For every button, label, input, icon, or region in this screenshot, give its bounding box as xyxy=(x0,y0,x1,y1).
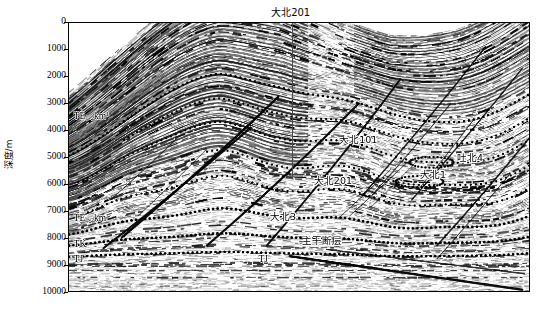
annotation-2-大北3: 大北3 xyxy=(270,212,296,222)
y-axis-title: 深度/m xyxy=(2,125,15,185)
wellhead-label-dabei201: 大北201 xyxy=(271,4,310,19)
annotation-1-大北201: 大北201 xyxy=(314,176,352,186)
y-tick-4000: 4000 xyxy=(30,125,66,135)
y-tick-5000: 5000 xyxy=(30,152,66,162)
annotation-4-大北1: 大北1 xyxy=(420,170,446,180)
y-axis-tick-labels: 0100020003000400050006000700080009000100… xyxy=(24,0,66,309)
y-tick-6000: 6000 xyxy=(30,179,66,189)
horizon-label-te12km-lower: TE1-2km xyxy=(74,213,106,225)
y-tick-3000: 3000 xyxy=(30,98,66,108)
y-tick-2000: 2000 xyxy=(30,71,66,81)
horizon-label-tk: TK xyxy=(74,239,87,249)
horizon-label-tj-left: TJ xyxy=(74,254,84,264)
y-tick-10000: 10000 xyxy=(30,287,66,297)
y-tick-9000: 9000 xyxy=(30,260,66,270)
seismic-section-figure: 深度/m 01000200030004000500060007000800090… xyxy=(0,0,544,309)
y-tick-1000: 1000 xyxy=(30,44,66,54)
seismic-plot-area[interactable]: 大北101大北201大北3吐北4大北1主干断层TE1-2km1TE1-2kmTK… xyxy=(68,22,530,292)
y-tick-8000: 8000 xyxy=(30,233,66,243)
horizon-label-tj-mid: TJ xyxy=(258,254,268,264)
y-tick-0: 0 xyxy=(30,17,66,27)
annotation-5-主干断层: 主干断层 xyxy=(302,236,342,246)
annotation-3-吐北4: 吐北4 xyxy=(457,153,483,163)
horizon-label-te12km-upper: TE1-2km1 xyxy=(74,109,110,123)
y-tickmark-10000 xyxy=(64,292,68,293)
annotation-0-大北101: 大北101 xyxy=(339,135,377,145)
y-tick-7000: 7000 xyxy=(30,206,66,216)
wellhead-trace-line xyxy=(292,23,293,177)
